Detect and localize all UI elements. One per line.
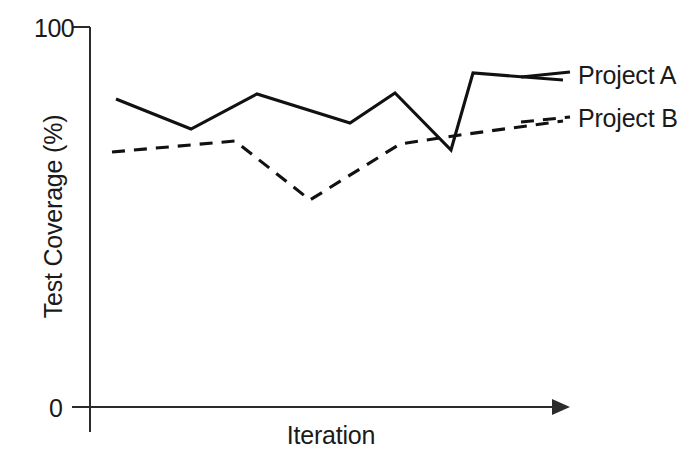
line-chart: 100 0 Test Coverage (%) Iteration Projec…	[0, 0, 683, 458]
y-axis-max-tick-label: 100	[34, 14, 74, 43]
legend-label-project-a: Project A	[578, 61, 676, 90]
x-axis-title: Iteration	[236, 421, 426, 450]
series-line-project-a	[116, 73, 563, 150]
legend-label-project-b: Project B	[578, 104, 678, 133]
legend-swatch-project-a	[521, 72, 570, 77]
x-axis-arrow-icon	[552, 399, 570, 415]
series-line-project-b	[112, 121, 563, 200]
y-axis-title: Test Coverage (%)	[39, 72, 68, 362]
y-axis-min-tick-label: 0	[49, 394, 63, 423]
